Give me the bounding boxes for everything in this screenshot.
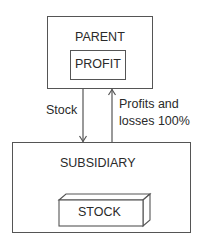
profits-arrow-label-line1: Profits and bbox=[119, 97, 179, 111]
profits-arrow-up bbox=[109, 89, 116, 142]
stock-arrow-down bbox=[80, 89, 87, 142]
stock-block-label: STOCK bbox=[78, 205, 121, 219]
diagram: PARENT PROFIT SUBSIDIARY STOCK Stock Pro… bbox=[0, 0, 203, 245]
stock-arrow-label: Stock bbox=[46, 103, 77, 117]
profits-arrow-label-line2: losses 100% bbox=[119, 114, 190, 128]
